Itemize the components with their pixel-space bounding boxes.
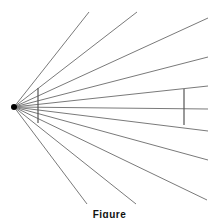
- ray-line: [14, 107, 208, 160]
- ray-line: [14, 107, 136, 204]
- ray-line: [14, 107, 208, 131]
- ray-line: [14, 107, 208, 109]
- ray-line: [14, 57, 208, 107]
- ray-line: [14, 107, 87, 204]
- ray-line: [14, 18, 208, 107]
- ray-line: [14, 86, 208, 107]
- focal-point: [11, 104, 17, 110]
- radiating-rays: [14, 12, 208, 204]
- radiating-lines-diagram: [0, 0, 219, 218]
- figure-caption: Figure: [0, 209, 219, 218]
- ray-line: [14, 107, 207, 200]
- ray-line: [14, 12, 89, 107]
